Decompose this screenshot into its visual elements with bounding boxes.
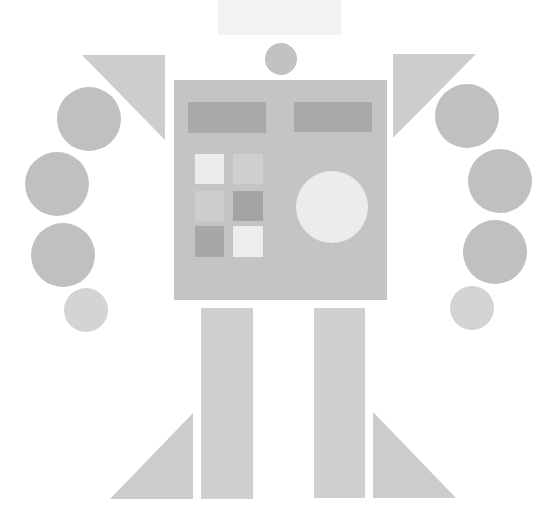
left-leg [201,308,253,499]
grid-r3-c2 [233,226,263,257]
robot-figure [0,0,555,527]
left-hand [64,288,108,332]
left-foot-triangle [110,413,193,499]
left-arm-segment [31,223,95,287]
right-arm-segment [468,149,532,213]
grid-r3-c1 [195,226,224,257]
left-panel [188,102,266,133]
grid-r1-c2 [233,154,263,184]
robot-head [265,43,297,75]
left-arm-segment [25,152,89,216]
right-panel [294,102,372,132]
right-arm-segment [463,220,527,284]
grid-r2-c2 [233,191,263,221]
grid-r2-c1 [195,191,224,221]
grid-r1-c1 [195,154,224,184]
body-dial-circle [296,171,368,243]
right-hand [450,286,494,330]
right-leg [314,308,365,498]
right-arm-segment [435,84,499,148]
right-foot-triangle [373,412,456,498]
left-arm-segment [57,87,121,151]
